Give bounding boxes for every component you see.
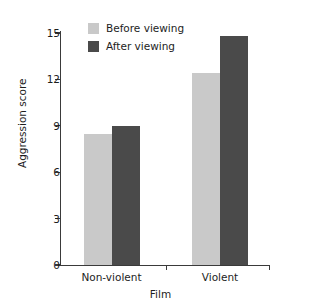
y-axis-title: Aggression score xyxy=(17,68,28,178)
legend-item-after-viewing: After viewing xyxy=(88,38,184,54)
legend-label-after-viewing: After viewing xyxy=(106,41,175,52)
chart-legend: Before viewing After viewing xyxy=(88,20,184,56)
legend-item-before-viewing: Before viewing xyxy=(88,20,184,36)
bar-violent-before-viewing xyxy=(192,73,220,265)
bar-chart: Before viewing After viewing 03691215 No… xyxy=(0,0,321,307)
legend-swatch-before-viewing xyxy=(88,23,99,34)
y-axis-tick-label: 3 xyxy=(36,213,60,224)
x-axis-tick xyxy=(269,265,270,270)
legend-swatch-after-viewing xyxy=(88,41,99,52)
x-axis-category-label: Violent xyxy=(202,272,238,283)
y-axis-tick-label: 12 xyxy=(36,74,60,85)
legend-label-before-viewing: Before viewing xyxy=(106,23,184,34)
y-axis-tick-label: 6 xyxy=(36,167,60,178)
y-axis-tick-label: 15 xyxy=(36,28,60,39)
x-axis-title: Film xyxy=(0,289,321,300)
x-axis-tick xyxy=(166,265,167,270)
bar-violent-after-viewing xyxy=(220,36,248,265)
y-axis-tick-label: 9 xyxy=(36,121,60,132)
bar-non-violent-before-viewing xyxy=(84,134,112,265)
y-axis-spine xyxy=(60,31,61,266)
y-axis-tick-label: 0 xyxy=(36,260,60,271)
x-axis-category-label: Non-violent xyxy=(81,272,141,283)
bar-non-violent-after-viewing xyxy=(112,126,140,265)
